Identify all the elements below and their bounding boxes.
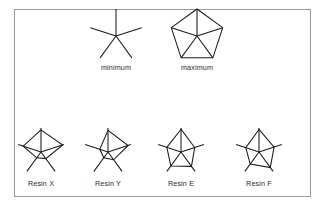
figure-frame	[15, 10, 311, 197]
glyph-label-resin-e: Resin E	[168, 179, 194, 188]
glyph-label-resin-x: Resin X	[28, 179, 54, 188]
reference-label-minimum: minimum	[101, 63, 131, 72]
star-plot-figure: minimummaximumResin XResin YResin EResin…	[0, 0, 323, 209]
glyph-label-resin-f: Resin F	[246, 179, 272, 188]
reference-label-maximum: maximum	[181, 63, 213, 72]
glyph-label-resin-y: Resin Y	[95, 179, 121, 188]
